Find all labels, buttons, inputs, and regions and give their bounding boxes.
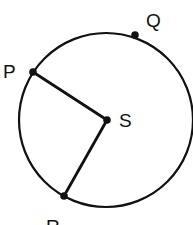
point-q-dot xyxy=(131,31,139,39)
point-p-dot xyxy=(29,68,37,76)
label-s: S xyxy=(119,110,132,131)
label-q: Q xyxy=(146,10,161,31)
label-r: R xyxy=(46,216,60,225)
segment-sr xyxy=(64,120,107,196)
point-s-dot xyxy=(103,116,111,124)
circle-diagram: P Q S R xyxy=(0,0,193,225)
segment-ps xyxy=(33,72,107,120)
label-p: P xyxy=(3,61,16,82)
point-r-dot xyxy=(60,192,68,200)
